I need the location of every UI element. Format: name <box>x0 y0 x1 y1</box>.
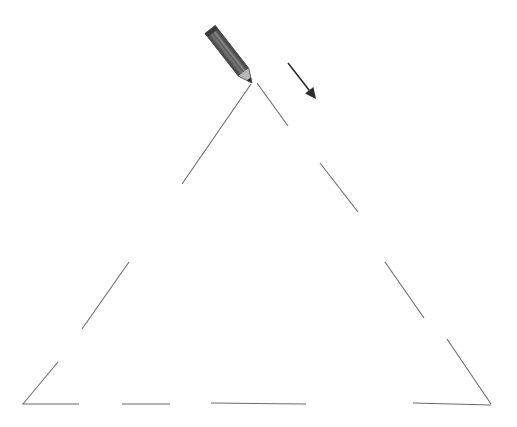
triangle-segment-right-edge-seg-4 <box>447 339 491 404</box>
pencil-facet-highlight-2 <box>208 30 243 74</box>
pencil-icon[interactable] <box>205 25 257 87</box>
worksheet-canvas <box>0 0 517 427</box>
triangle-segment-bottom-edge-seg-3 <box>211 403 306 404</box>
triangle-segment-bottom-edge-seg-4 <box>413 403 491 405</box>
trace-triangle-scene <box>0 0 517 427</box>
triangle-segment-left-edge-seg-3 <box>23 362 58 404</box>
triangle-segment-left-edge-seg-1 <box>182 84 251 184</box>
pencil-body-group[interactable] <box>205 25 257 87</box>
triangle-segment-right-edge-seg-1 <box>257 83 288 126</box>
pencil-facet-highlight-1 <box>211 28 246 72</box>
direction-arrow <box>288 63 316 99</box>
triangle-segment-right-edge-seg-2 <box>320 163 358 212</box>
triangle-outline <box>22 83 491 405</box>
arrow-shaft <box>288 63 309 90</box>
arrow-head <box>305 87 316 99</box>
triangle-segment-left-edge-seg-2 <box>82 262 129 329</box>
triangle-segment-right-edge-seg-3 <box>385 262 424 318</box>
